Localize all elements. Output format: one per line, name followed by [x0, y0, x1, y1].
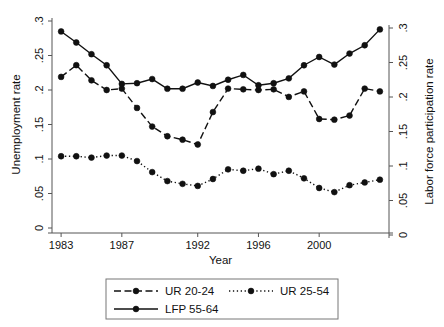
data-point [104, 62, 110, 68]
data-point [271, 171, 277, 177]
data-point [240, 86, 246, 92]
data-point [225, 86, 231, 92]
data-point [347, 113, 353, 119]
data-point [73, 62, 79, 68]
data-point [225, 77, 231, 83]
left-y-tick-label: .15 [33, 117, 45, 132]
data-point [210, 109, 216, 115]
data-point [134, 158, 140, 164]
legend-marker [133, 288, 139, 294]
data-point [301, 88, 307, 94]
right-y-tick-label: 0 [397, 232, 409, 238]
x-tick-label: 2000 [307, 239, 331, 251]
x-tick-label: 1987 [110, 239, 134, 251]
data-point [149, 124, 155, 130]
y-axis-title: Unemployment rate [10, 74, 22, 174]
data-point [301, 62, 307, 68]
data-point [58, 74, 64, 80]
x-tick-label: 1996 [246, 239, 270, 251]
data-point [316, 116, 322, 122]
data-point [89, 51, 95, 57]
data-point [331, 117, 337, 123]
data-point [119, 81, 125, 87]
data-point [89, 155, 95, 161]
data-point [362, 42, 368, 48]
series-line-0 [61, 65, 380, 144]
data-point [362, 180, 368, 186]
plot-area: 0.05.1.15.2.25.3Unemployment rate0.05.1.… [10, 16, 435, 319]
data-point [119, 153, 125, 159]
data-point [316, 54, 322, 60]
legend-label: UR 25-54 [280, 285, 330, 297]
data-point [180, 86, 186, 92]
data-point [240, 72, 246, 78]
left-y-tick-label: .2 [33, 85, 45, 94]
data-point [256, 82, 262, 88]
chart-figure: 0.05.1.15.2.25.3Unemployment rate0.05.1.… [0, 0, 444, 327]
data-point [195, 142, 201, 148]
line-chart: 0.05.1.15.2.25.3Unemployment rate0.05.1.… [0, 0, 444, 327]
x-axis-title: Year [209, 254, 232, 266]
data-point [225, 166, 231, 172]
data-point [377, 177, 383, 183]
data-point [240, 168, 246, 174]
series-line-1 [61, 156, 380, 193]
data-point [134, 105, 140, 111]
series-line-2 [61, 29, 380, 88]
data-point [89, 77, 95, 83]
left-y-tick-label: .05 [33, 186, 45, 201]
right-y-tick-label: .3 [397, 23, 409, 32]
data-point [104, 87, 110, 93]
data-point [316, 185, 322, 191]
left-y-tick-label: .3 [33, 16, 45, 25]
right-y-tick-label: .25 [397, 55, 409, 70]
legend-label: LFP 55-64 [165, 303, 219, 315]
data-point [286, 94, 292, 100]
data-point [377, 88, 383, 94]
left-y-tick-label: .25 [33, 48, 45, 63]
data-point [377, 26, 383, 32]
data-point [149, 169, 155, 175]
data-point [58, 29, 64, 35]
data-point [195, 183, 201, 189]
data-point [164, 178, 170, 184]
x-tick-label: 1983 [49, 239, 73, 251]
data-point [149, 76, 155, 82]
data-point [286, 75, 292, 81]
right-y-tick-label: .15 [397, 124, 409, 139]
data-point [73, 40, 79, 46]
data-point [104, 153, 110, 159]
data-point [286, 168, 292, 174]
right-y-tick-label: .1 [397, 161, 409, 170]
data-point [134, 80, 140, 86]
x-tick-label: 1992 [185, 239, 209, 251]
data-point [210, 176, 216, 182]
left-y-tick-label: .1 [33, 154, 45, 163]
right-y-tick-label: .2 [397, 92, 409, 101]
data-point [271, 86, 277, 92]
data-point [347, 182, 353, 188]
data-point [210, 83, 216, 89]
data-point [331, 62, 337, 68]
data-point [58, 153, 64, 159]
legend-label: UR 20-24 [165, 285, 215, 297]
right-y-tick-label: .05 [397, 193, 409, 208]
data-point [362, 86, 368, 92]
data-point [195, 80, 201, 86]
y2-axis-title: Labor force participation rate [423, 58, 435, 204]
data-point [164, 86, 170, 92]
data-point [180, 181, 186, 187]
legend-marker [133, 306, 139, 312]
data-point [73, 153, 79, 159]
data-point [347, 51, 353, 57]
data-point [256, 166, 262, 172]
data-point [301, 175, 307, 181]
data-point [180, 137, 186, 143]
left-y-tick-label: 0 [33, 225, 45, 231]
legend-marker [248, 288, 254, 294]
data-point [164, 133, 170, 139]
data-point [331, 189, 337, 195]
data-point [271, 80, 277, 86]
